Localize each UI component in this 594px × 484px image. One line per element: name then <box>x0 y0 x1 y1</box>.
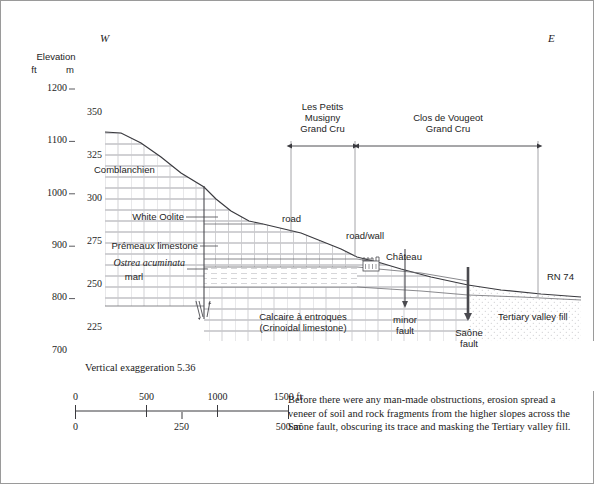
strata-label-white-oolite: White Oolite <box>76 211 184 222</box>
strata-label-ostrea-marl: marl <box>105 271 163 282</box>
vineyard-label-clos-de-vougeot-line2: Grand Cru <box>383 123 513 134</box>
fault-label-minor-line1: minor <box>377 314 433 325</box>
m-tick-325: 325 <box>87 149 102 160</box>
scale-m-250: 250 <box>167 421 196 432</box>
scale-bar <box>76 405 289 419</box>
strata-label-ostrea-acuminata: Ostrea acuminata <box>65 257 185 268</box>
vineyard-label-les-petits-musigny-line2: Musigny <box>276 112 369 123</box>
scale-ft-0: 0 <box>63 391 88 402</box>
vineyard-label-les-petits-musigny-line1: Les Petits <box>276 101 369 112</box>
scale-ft-1000: 1000 <box>201 391 234 402</box>
ft-tick-900: 900 <box>11 239 67 250</box>
fault-label-saone-line1: Saône <box>441 327 497 338</box>
m-tick-300: 300 <box>87 192 102 203</box>
figure-caption: Before there were any man-made obstructi… <box>288 393 576 434</box>
ft-tick-1000: 1000 <box>11 187 67 198</box>
strata-label-tertiary-valley-fill: Tertiary valley fill <box>498 311 568 322</box>
strata-label-calcaire-entroques-line2: (Crinoidal limestone) <box>233 322 373 333</box>
ft-tick-800: 800 <box>11 291 67 302</box>
m-tick-350: 350 <box>87 106 102 117</box>
fault-label-minor-line2: fault <box>377 325 433 336</box>
vineyard-label-clos-de-vougeot-line1: Clos de Vougeot <box>383 112 513 123</box>
ft-tick-1100: 1100 <box>11 134 67 145</box>
scale-m-0: 0 <box>63 421 88 432</box>
feature-label-road: road <box>282 213 301 224</box>
ft-tick-1200: 1200 <box>11 82 67 93</box>
fault-label-saone-line2: fault <box>441 338 497 349</box>
strata-label-calcaire-entroques-line1: Calcaire à entroques <box>233 311 373 322</box>
feature-label-road-wall: road/wall <box>346 230 384 241</box>
ft-tick-700: 700 <box>11 344 67 355</box>
vineyard-label-les-petits-musigny-line3: Grand Cru <box>276 123 369 134</box>
scale-ft-500: 500 <box>132 391 161 402</box>
vertical-exaggeration-note: Vertical exaggeration 5.36 <box>85 362 196 373</box>
m-tick-250: 250 <box>87 278 102 289</box>
feature-label-rn74: RN 74 <box>547 271 574 282</box>
strata-label-comblanchien: Comblanchien <box>94 164 155 175</box>
geologic-cross-section-figure: W E Elevation ft m <box>0 0 594 484</box>
m-tick-225: 225 <box>87 321 102 332</box>
feature-label-chateau: Château <box>386 251 422 262</box>
strata-label-premeaux-limestone: Prémeaux limestone <box>66 240 198 251</box>
